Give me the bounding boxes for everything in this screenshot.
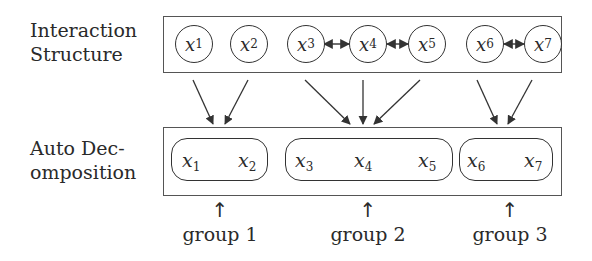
sub: 3 xyxy=(306,160,314,174)
group-var-x1: x1 xyxy=(182,150,200,177)
var: x xyxy=(354,149,365,171)
node-var: x xyxy=(534,34,544,55)
var: x xyxy=(467,149,478,171)
var: x xyxy=(238,149,249,171)
group-var-x6: x6 xyxy=(467,150,485,177)
group-1-label: group 1 xyxy=(175,223,265,245)
node-x7: x7 xyxy=(524,25,562,63)
node-sub: 5 xyxy=(428,37,436,51)
node-var: x xyxy=(476,34,486,55)
node-x4: x4 xyxy=(349,25,387,63)
node-x6: x6 xyxy=(466,25,504,63)
node-var: x xyxy=(418,34,428,55)
node-var: x xyxy=(297,34,307,55)
node-sub: 3 xyxy=(307,37,315,51)
var: x xyxy=(524,149,535,171)
group-var-x2: x2 xyxy=(238,150,256,177)
group-var-x5: x5 xyxy=(418,150,436,177)
sub: 1 xyxy=(193,160,201,174)
node-sub: 6 xyxy=(486,37,494,51)
node-var: x xyxy=(240,34,250,55)
node-sub: 2 xyxy=(250,37,258,51)
var: x xyxy=(295,149,306,171)
var: x xyxy=(182,149,193,171)
sub: 6 xyxy=(478,160,486,174)
var: x xyxy=(418,149,429,171)
node-x2: x2 xyxy=(230,25,268,63)
up-arrow-icon: ↑ xyxy=(500,200,520,220)
node-x5: x5 xyxy=(408,25,446,63)
node-sub: 7 xyxy=(544,37,552,51)
up-arrow-icon: ↑ xyxy=(358,200,378,220)
node-var: x xyxy=(359,34,369,55)
node-x1: x1 xyxy=(175,25,213,63)
node-var: x xyxy=(185,34,195,55)
sub: 2 xyxy=(249,160,257,174)
group-2-label: group 2 xyxy=(323,223,413,245)
up-arrow-icon: ↑ xyxy=(210,200,230,220)
group-var-x4: x4 xyxy=(354,150,372,177)
group-var-x3: x3 xyxy=(295,150,313,177)
node-x3: x3 xyxy=(287,25,325,63)
sub: 4 xyxy=(365,160,373,174)
sub: 7 xyxy=(535,160,543,174)
node-sub: 4 xyxy=(369,37,377,51)
group-3-label: group 3 xyxy=(465,223,555,245)
node-sub: 1 xyxy=(195,37,203,51)
group-var-x7: x7 xyxy=(524,150,542,177)
sub: 5 xyxy=(429,160,437,174)
